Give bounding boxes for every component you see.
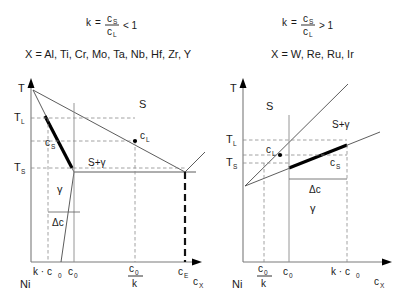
xtick-cE-sub-left: E: [184, 272, 189, 279]
formula-numerator-sub-right: S: [309, 18, 314, 25]
delta-c-label-right: Δc: [309, 184, 321, 195]
x-axis-label-right: c X: [374, 276, 385, 289]
xtick-c0-right: c 0: [283, 266, 293, 279]
x-axis-label-sub-right: X: [380, 282, 385, 289]
TL-label-right: T L: [226, 133, 237, 147]
xtick-c0-sub-right: 0: [289, 272, 293, 279]
cL-point-right: [278, 153, 282, 157]
elements-label-left: X = Al, Ti, Cr, Mo, Ta, Nb, Hf, Zr, Y: [25, 48, 192, 60]
formula-denominator-sub-right: L: [309, 31, 313, 38]
formula-comparison: < 1: [123, 20, 138, 31]
cL-label-left: c L: [140, 130, 150, 143]
region-gamma-left: γ: [57, 183, 63, 195]
liquidus-line-left: [33, 90, 185, 172]
cL-base-left: c: [140, 130, 145, 141]
formula-numerator: c: [107, 13, 112, 24]
formula-denominator-sub: L: [113, 31, 117, 38]
elements-label-right: X = W, Re, Ru, Ir: [271, 48, 354, 60]
x-axis-label-base-left: c: [193, 276, 198, 287]
xtick-c0k-den-left: k: [132, 278, 138, 289]
y-axis-label-right: T: [230, 82, 237, 94]
y-axis-arrow-left: [28, 78, 35, 88]
xtick-c0k-numsub-right: 0: [264, 269, 268, 276]
formula-denominator-right: c: [303, 26, 308, 37]
origin-label-left: Ni: [20, 278, 30, 290]
cS-sub-left: S: [51, 143, 56, 150]
TS-base-left: T: [14, 161, 21, 173]
region-S-gamma-left: S+γ: [88, 157, 106, 168]
xtick-c0k-numsub-left: 0: [135, 269, 139, 276]
formula-numerator-right: c: [303, 13, 308, 24]
region-S-right: S: [266, 100, 273, 112]
xtick-cE-text-left: c: [178, 266, 183, 277]
formula-comparison-right: > 1: [319, 20, 334, 31]
xtick-kc0-sub-left: 0: [58, 272, 62, 279]
xtick-c0k-den-right: k: [261, 278, 267, 289]
cL-point-left: [133, 139, 137, 143]
x-axis-arrow-left: [192, 259, 202, 266]
panel-right: k = c S c L > 1 X = W, Re, Ru, Ir: [226, 13, 392, 290]
cS-sub-right: S: [336, 163, 341, 170]
cS-label-left: c S: [45, 137, 56, 150]
formula-left: k = c S c L < 1: [86, 13, 138, 38]
cS-label-right: c S: [330, 157, 341, 170]
y-axis-label-left: T: [18, 82, 25, 94]
TS-sub-right: S: [233, 163, 238, 170]
x-axis-label-base-right: c: [374, 276, 379, 287]
xtick-c0-text-right: c: [283, 266, 288, 277]
liquidus-line-right: [245, 84, 348, 186]
figure-root: k = c S c L < 1 X = Al, Ti, Cr, Mo, Ta, …: [0, 0, 412, 294]
xtick-c0-text-left: c: [68, 266, 73, 277]
cS-base-left: c: [45, 137, 50, 148]
xtick-kc0-left: k · c 0: [33, 266, 62, 279]
origin-label-right: Ni: [232, 278, 242, 290]
xtick-kc0-text-left: k · c: [33, 266, 52, 277]
xtick-c0-over-k-right: c 0 k: [257, 263, 272, 289]
formula-equals: =: [95, 17, 101, 28]
phase-diagram-figure: k = c S c L < 1 X = Al, Ti, Cr, Mo, Ta, …: [0, 0, 412, 294]
TL-base-left: T: [14, 111, 21, 123]
cL-base-right: c: [266, 144, 271, 155]
formula-equals-right: =: [291, 17, 297, 28]
formula-denominator: c: [107, 26, 112, 37]
xtick-c0k-num-left: c: [129, 263, 134, 274]
x-axis-arrow-right: [382, 259, 392, 266]
TL-label-left: T L: [14, 111, 25, 125]
cL-sub-right: L: [272, 150, 276, 157]
xtick-cE-left: c E: [178, 266, 189, 279]
right-branch-left: [185, 152, 205, 172]
x-axis-label-left: c X: [193, 276, 204, 289]
TL-sub-left: L: [21, 118, 25, 125]
xtick-c0k-num-right: c: [258, 263, 263, 274]
formula-k-right: k: [282, 17, 288, 28]
x-axis-label-sub-left: X: [199, 282, 204, 289]
region-S-left: S: [139, 98, 146, 110]
TL-sub-right: L: [233, 140, 237, 147]
xtick-c0-sub-left: 0: [74, 272, 78, 279]
TS-label-left: T S: [14, 161, 26, 175]
xtick-kc0-sub-right: 0: [356, 272, 360, 279]
region-S-gamma-right: S+γ: [332, 119, 350, 130]
cL-sub-left: L: [146, 136, 150, 143]
TS-base-right: T: [226, 156, 233, 168]
formula-k: k: [86, 17, 92, 28]
TL-base-right: T: [226, 133, 233, 145]
delta-c-label-left: Δc: [52, 217, 64, 228]
formula-numerator-sub: S: [113, 18, 118, 25]
xtick-c0-left: c 0: [68, 266, 78, 279]
panel-left: k = c S c L < 1 X = Al, Ti, Cr, Mo, Ta, …: [14, 13, 205, 290]
xtick-kc0-right: k · c 0: [331, 266, 360, 279]
TS-label-right: T S: [226, 156, 238, 170]
formula-right: k = c S c L > 1: [282, 13, 334, 38]
TS-sub-left: S: [21, 168, 26, 175]
cS-base-right: c: [330, 157, 335, 168]
region-gamma-right: γ: [310, 202, 316, 214]
xtick-kc0-text-right: k · c: [331, 266, 350, 277]
y-axis-arrow-right: [240, 78, 247, 88]
xtick-c0-over-k-left: c 0 k: [128, 263, 143, 289]
